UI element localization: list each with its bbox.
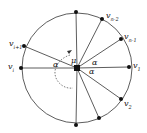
spoke-vn-2 bbox=[77, 19, 102, 68]
dot-vn-1 bbox=[119, 37, 123, 41]
dot-vi+1 bbox=[22, 44, 26, 48]
spoke-vn-1 bbox=[77, 39, 121, 68]
label-vi+1: vi+1 bbox=[9, 40, 23, 50]
label-v2-sub: 2 bbox=[129, 104, 132, 110]
label-vi+1-sub: i+1 bbox=[14, 44, 23, 50]
spoke-vi+1 bbox=[24, 46, 77, 68]
spoke-v1 bbox=[77, 67, 129, 68]
center-node bbox=[74, 65, 80, 71]
arrow-head-icon bbox=[67, 50, 72, 54]
label-mu: μ bbox=[71, 57, 76, 65]
dot-v2 bbox=[119, 97, 123, 101]
label-vn-1-sub: n-1 bbox=[129, 37, 137, 43]
label-vn-2-sub: n-2 bbox=[111, 16, 119, 22]
label-vi-sub: i bbox=[13, 67, 15, 73]
label-vn-1: vn-1 bbox=[124, 33, 137, 43]
label-v2: v2 bbox=[124, 100, 132, 110]
label-alpha-left: α bbox=[53, 61, 58, 69]
label-alpha-right-upper: α bbox=[92, 59, 97, 67]
dot-top bbox=[74, 10, 78, 14]
label-alpha-right-lower: α bbox=[89, 68, 94, 76]
label-vn-2: vn-2 bbox=[106, 12, 119, 22]
spoke-bottom bbox=[76, 68, 77, 125]
label-v1: v1 bbox=[133, 62, 141, 72]
dot-bottom-right bbox=[97, 116, 101, 120]
dot-v1 bbox=[127, 65, 131, 69]
label-vi: vi bbox=[8, 63, 14, 73]
diagram-canvas bbox=[0, 0, 147, 133]
dot-vi bbox=[19, 66, 23, 70]
label-v1-sub: 1 bbox=[138, 66, 141, 72]
dot-vn-2 bbox=[100, 17, 104, 21]
dot-bottom bbox=[74, 123, 78, 127]
